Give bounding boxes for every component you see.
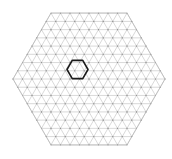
mesh-node: [122, 136, 123, 137]
mesh-node: [60, 29, 61, 30]
mesh-node: [84, 87, 85, 88]
mesh-node: [126, 29, 127, 30]
mesh-node: [74, 54, 75, 55]
mesh-node: [69, 95, 70, 96]
mesh-node: [136, 62, 137, 63]
mesh-node: [60, 78, 61, 79]
mesh-node: [117, 29, 118, 30]
mesh-node: [150, 87, 151, 88]
mesh-node: [150, 70, 151, 71]
mesh-node: [36, 87, 37, 88]
mesh-node: [65, 120, 66, 121]
mesh-node: [122, 87, 123, 88]
mesh-node: [31, 78, 32, 79]
mesh-node: [107, 78, 108, 79]
mesh-node: [41, 78, 42, 79]
mesh-node: [60, 95, 61, 96]
mesh-node: [88, 111, 89, 112]
mesh-node: [98, 46, 99, 47]
mesh-node: [98, 111, 99, 112]
mesh-node: [98, 95, 99, 96]
mesh-node: [131, 87, 132, 88]
mesh-node: [65, 103, 66, 104]
mesh-node: [145, 78, 146, 79]
mesh-node: [88, 95, 89, 96]
mesh-node: [117, 95, 118, 96]
mesh-node: [117, 111, 118, 112]
mesh-node: [74, 136, 75, 137]
mesh-node: [131, 37, 132, 38]
mesh-node: [107, 29, 108, 30]
mesh-node: [36, 103, 37, 104]
mesh-node: [141, 70, 142, 71]
mesh-node: [88, 62, 89, 63]
mesh-node: [60, 46, 61, 47]
triangular-mesh-diagram: [0, 0, 172, 159]
mesh-node: [55, 120, 56, 121]
mesh-node: [112, 136, 113, 137]
mesh-node: [50, 62, 51, 63]
mesh-node: [112, 120, 113, 121]
mesh-node: [60, 128, 61, 129]
mesh-node: [126, 78, 127, 79]
mesh-node: [117, 46, 118, 47]
mesh-node: [103, 54, 104, 55]
mesh-node: [46, 54, 47, 55]
mesh-node: [79, 95, 80, 96]
mesh-node: [122, 70, 123, 71]
mesh-node: [117, 78, 118, 79]
mesh-node: [155, 78, 156, 79]
mesh-node: [55, 70, 56, 71]
mesh-node: [88, 46, 89, 47]
mesh-node: [141, 54, 142, 55]
mesh-node: [65, 21, 66, 22]
mesh-node: [74, 21, 75, 22]
mesh-node: [136, 46, 137, 47]
mesh-node: [60, 111, 61, 112]
mesh-node: [55, 103, 56, 104]
mesh-node: [31, 62, 32, 63]
mesh-node: [84, 21, 85, 22]
mesh-node: [46, 87, 47, 88]
mesh-node: [50, 46, 51, 47]
mesh-node: [84, 37, 85, 38]
mesh-node: [50, 128, 51, 129]
mesh-node: [69, 78, 70, 79]
mesh-node: [103, 136, 104, 137]
figure-container: [0, 0, 172, 159]
mesh-node: [69, 46, 70, 47]
mesh-node: [36, 54, 37, 55]
mesh-node: [141, 87, 142, 88]
mesh-node: [41, 62, 42, 63]
mesh-node: [69, 111, 70, 112]
mesh-node: [79, 46, 80, 47]
mesh-node: [55, 136, 56, 137]
mesh-node: [98, 62, 99, 63]
mesh-node: [93, 136, 94, 137]
mesh-node: [50, 111, 51, 112]
mesh-node: [65, 37, 66, 38]
mesh-node: [79, 128, 80, 129]
mesh-node: [65, 54, 66, 55]
mesh-node: [93, 21, 94, 22]
mesh-node: [136, 95, 137, 96]
mesh-node: [107, 95, 108, 96]
mesh-node: [41, 95, 42, 96]
mesh-node: [41, 111, 42, 112]
mesh-node: [122, 54, 123, 55]
mesh-node: [112, 70, 113, 71]
mesh-node: [46, 37, 47, 38]
mesh-node: [126, 95, 127, 96]
mesh-node: [88, 128, 89, 129]
mesh-node: [93, 87, 94, 88]
mesh-node: [103, 120, 104, 121]
mesh-node: [41, 46, 42, 47]
mesh-node: [46, 70, 47, 71]
mesh-node: [46, 103, 47, 104]
mesh-node: [98, 128, 99, 129]
mesh-node: [46, 120, 47, 121]
mesh-node: [84, 103, 85, 104]
mesh-node: [84, 54, 85, 55]
mesh-node: [136, 111, 137, 112]
mesh-node: [98, 78, 99, 79]
